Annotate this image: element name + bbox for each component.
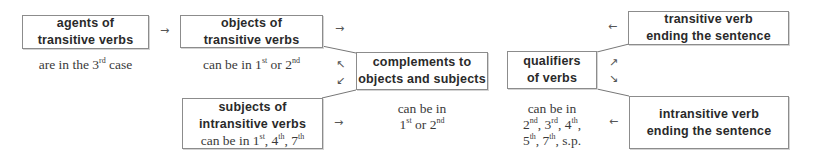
arrow-right-icon: → xyxy=(335,22,344,35)
subjects-case-note: can be in 1st, 4th, 7th xyxy=(201,133,305,149)
node-title: ending the sentence xyxy=(646,28,771,45)
arrow-left-icon: ← xyxy=(608,20,617,33)
node-title: complements to xyxy=(373,54,472,71)
arrow-left-icon: ← xyxy=(609,115,618,128)
node-title: intransitive verbs xyxy=(199,116,306,133)
node-title: intransitive verb xyxy=(659,106,759,123)
node-subjects-of-intransitive-verbs: subjects of intransitive verbs can be in… xyxy=(182,98,323,149)
node-title: of verbs xyxy=(527,70,577,87)
node-title: transitive verbs xyxy=(204,32,300,49)
node-title: qualifiers xyxy=(523,53,581,70)
node-title: subjects of xyxy=(218,99,286,116)
qualifiers-case-note: can be in 2nd, 3rd, 4th, 5th, 7th, s.p. xyxy=(502,101,602,149)
node-title: agents of xyxy=(57,15,114,32)
node-objects-of-transitive-verbs: objects of transitive verbs xyxy=(180,15,323,48)
node-title: ending the sentence xyxy=(647,123,772,140)
arrow-down-left-icon: ↙ xyxy=(336,74,345,87)
node-title: objects of xyxy=(221,15,282,32)
arrow-up-left-icon: ↖ xyxy=(336,58,345,71)
arrow-up-right-icon: ↗ xyxy=(609,56,618,69)
node-qualifiers-of-verbs: qualifiers of verbs xyxy=(507,51,597,89)
node-agents-of-transitive-verbs: agents of transitive verbs xyxy=(22,15,149,49)
arrow-right-icon: → xyxy=(334,116,343,129)
node-title: transitive verbs xyxy=(38,32,134,49)
objects-case-note: can be in 1st or 2nd xyxy=(180,57,323,73)
arrow-right-icon: → xyxy=(160,24,169,37)
complements-case-note: can be in 1st or 2nd xyxy=(356,101,488,133)
node-intransitive-verb-ending-sentence: intransitive verb ending the sentence xyxy=(629,96,789,149)
node-transitive-verb-ending-sentence: transitive verb ending the sentence xyxy=(628,11,789,45)
node-title: transitive verb xyxy=(664,11,752,28)
node-title: objects and subjects xyxy=(358,71,486,88)
node-complements-to-objects-and-subjects: complements to objects and subjects xyxy=(356,52,488,90)
agents-case-note: are in the 3rd case xyxy=(22,57,149,73)
arrow-down-right-icon: ↘ xyxy=(609,72,618,85)
